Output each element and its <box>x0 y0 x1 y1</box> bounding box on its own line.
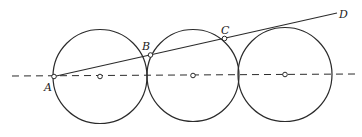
point-b-marker <box>148 53 153 58</box>
label-b: B <box>141 40 150 53</box>
geometry-diagram: A B C D <box>0 0 362 137</box>
center-point-3 <box>283 72 288 77</box>
line-a-to-d <box>54 13 337 77</box>
center-point-1 <box>98 74 103 79</box>
center-point-2 <box>191 73 196 78</box>
point-a-marker <box>52 74 57 79</box>
label-d: D <box>338 8 348 21</box>
label-a: A <box>43 81 52 94</box>
label-c: C <box>221 24 230 37</box>
